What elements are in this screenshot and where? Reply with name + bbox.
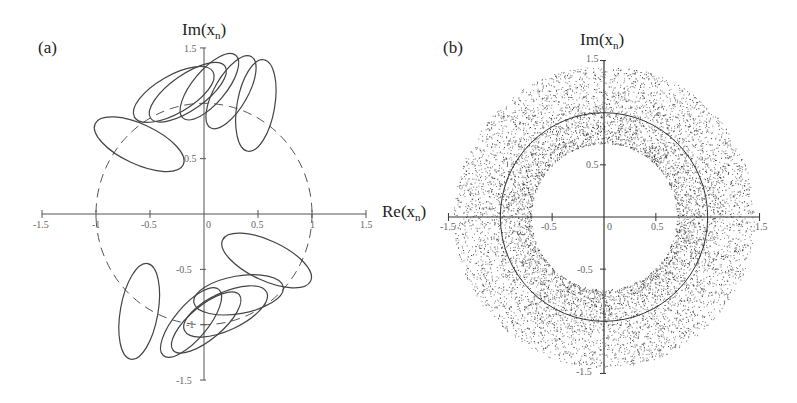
x-tick-label: 1: [310, 219, 315, 230]
orbit-loop: [162, 282, 250, 363]
y-axis-title-text: Im(x: [580, 30, 613, 49]
panel-b-plot: [448, 61, 759, 374]
orbit-loop: [177, 275, 275, 347]
x-axis-title-text: Re(x: [382, 202, 415, 221]
x-tick-label: 0: [607, 221, 612, 232]
panel-b-label: (b): [443, 38, 463, 58]
panel-a-y-axis-title: Im(xn): [182, 20, 226, 41]
panel-a-plot: [42, 45, 366, 380]
x-tick-label: 1.5: [755, 221, 768, 232]
y-tick-label: 1.5: [586, 53, 599, 64]
panel-b-y-axis-title: Im(xn): [580, 30, 624, 51]
y-tick-label: -1.5: [176, 375, 192, 386]
x-tick-label: 0.5: [251, 219, 264, 230]
y-tick-label: 0.5: [184, 153, 197, 164]
orbit-loop: [140, 52, 235, 133]
y-axis-title-close: ): [221, 20, 227, 39]
x-tick-label: -0.5: [141, 219, 157, 230]
y-tick-label: -1: [186, 319, 194, 330]
x-tick-label: -1.5: [33, 219, 49, 230]
x-tick-label: -0.5: [541, 221, 557, 232]
y-tick-label: 0.5: [586, 159, 599, 170]
x-axis-title-close: ): [421, 202, 427, 221]
y-axis-title-text: Im(x: [182, 20, 215, 39]
y-tick-label: 1.5: [184, 43, 197, 54]
orbit-loop: [170, 45, 248, 129]
panel-b-x-axis-title: Re(xn): [382, 202, 426, 223]
x-tick-label: -1.5: [440, 221, 456, 232]
y-axis-title-close: ): [619, 30, 625, 49]
orbit-loop: [125, 55, 222, 133]
x-tick-label: 0: [206, 219, 211, 230]
x-tick-label: -1: [92, 219, 100, 230]
panel-a-label: (a): [38, 38, 57, 58]
y-tick-label: -0.5: [176, 264, 192, 275]
x-tick-label: 0.5: [651, 221, 664, 232]
orbit-loop: [214, 222, 319, 299]
orbit-loop: [87, 106, 192, 183]
x-tick-label: 1.5: [360, 219, 373, 230]
y-tick-label: -1.5: [576, 366, 592, 377]
orbit-loop: [112, 260, 166, 362]
y-tick-label: -0.5: [577, 264, 593, 275]
